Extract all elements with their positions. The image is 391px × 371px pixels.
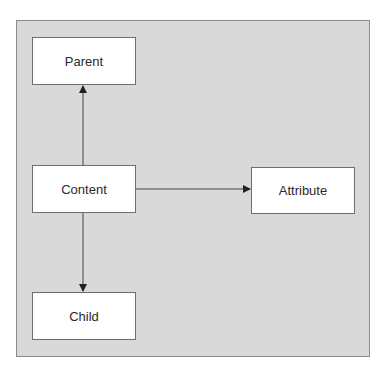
node-attribute: Attribute (251, 167, 355, 214)
node-attribute-label: Attribute (279, 183, 327, 198)
node-content: Content (32, 165, 136, 213)
node-parent: Parent (32, 37, 136, 85)
node-content-label: Content (61, 182, 107, 197)
node-child-label: Child (69, 309, 99, 324)
node-child: Child (32, 292, 136, 340)
node-parent-label: Parent (65, 54, 103, 69)
